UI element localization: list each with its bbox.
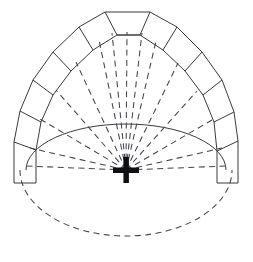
rib-5: [76, 62, 126, 170]
rib-14: [126, 148, 222, 170]
rib-8: [126, 32, 127, 170]
center-cross-vertical-arm: [123, 157, 128, 183]
band-divider-8: [163, 27, 177, 50]
radial-rib-lines: [26, 32, 226, 170]
band-divider-12: [217, 141, 238, 151]
band-divider-11: [214, 112, 234, 122]
band-dividers: [14, 12, 238, 151]
rib-13: [126, 120, 212, 170]
band-divider-7: [140, 12, 150, 35]
rib-10: [126, 41, 156, 170]
rib-7: [112, 33, 126, 170]
band-divider-1: [14, 142, 36, 150]
figure-canvas: Fan vault radial plan: [0, 0, 253, 262]
rib-4: [56, 90, 126, 170]
band-divider-3: [33, 80, 53, 95]
band-divider-6: [105, 12, 117, 35]
rib-2: [30, 148, 126, 170]
center-cross: [113, 157, 139, 183]
band-divider-4: [53, 52, 71, 71]
rib-3: [40, 119, 126, 170]
band-divider-5: [79, 27, 93, 50]
band-divider-10: [203, 80, 222, 95]
band-divider-9: [185, 52, 202, 71]
line-drawing-svg: [0, 0, 253, 262]
rib-12: [126, 91, 197, 170]
rib-6: [99, 40, 126, 170]
band-divider-2: [20, 111, 41, 122]
rib-9: [126, 33, 142, 170]
rib-11: [126, 63, 178, 170]
